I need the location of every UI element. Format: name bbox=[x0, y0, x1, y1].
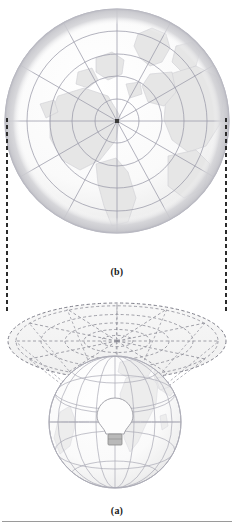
north-pole-marker bbox=[115, 119, 119, 123]
footer-rule bbox=[2, 521, 232, 522]
panel-b-polar-map bbox=[0, 0, 234, 258]
figure-azimuthal-projection: (b) bbox=[0, 0, 234, 527]
caption-panel-b: (b) bbox=[0, 266, 234, 277]
panel-a-projection-construction bbox=[0, 282, 234, 510]
projection-construction-svg bbox=[0, 282, 234, 510]
caption-panel-a: (a) bbox=[0, 505, 234, 516]
connector-line-right bbox=[225, 118, 227, 314]
polar-azimuthal-map-svg bbox=[0, 0, 234, 258]
connector-line-left bbox=[6, 118, 8, 314]
bulb-base-icon bbox=[108, 434, 122, 445]
